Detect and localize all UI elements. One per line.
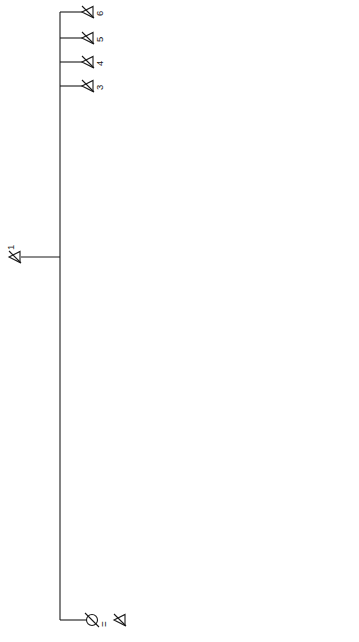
svg-text:=: = — [99, 621, 110, 627]
founder-node: 1 — [5, 245, 60, 263]
brother-nodes: 3 4 5 6 — [82, 6, 105, 92]
node-2-marriage: = — [85, 613, 126, 627]
svg-text:5: 5 — [94, 37, 105, 42]
svg-text:6: 6 — [94, 11, 105, 16]
svg-text:3: 3 — [94, 85, 105, 90]
kinship-diagram: 1 3 4 5 6 = — [0, 0, 359, 642]
svg-text:1: 1 — [5, 245, 16, 250]
svg-text:4: 4 — [94, 61, 105, 66]
